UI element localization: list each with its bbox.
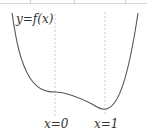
- function-label: y=f(x): [16, 12, 53, 26]
- marker-label-x0: x=0: [44, 117, 68, 131]
- marker-label-x1: x=1: [94, 117, 118, 131]
- function-curve: [12, 13, 138, 109]
